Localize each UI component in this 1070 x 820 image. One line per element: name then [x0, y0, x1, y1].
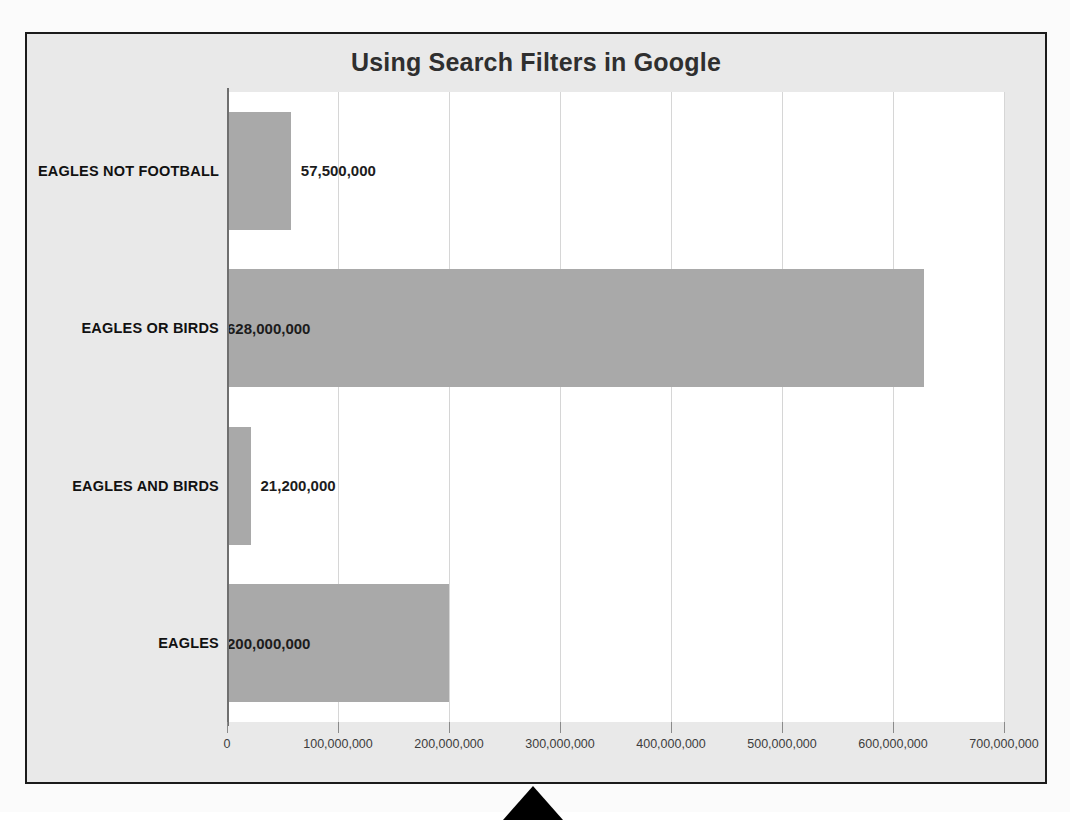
axis-tick-label: 700,000,000	[969, 737, 1039, 751]
axis-tick-label: 200,000,000	[414, 737, 484, 751]
axis-tick	[1004, 722, 1005, 733]
category-label: EAGLES OR BIRDS	[31, 269, 227, 387]
axis-tick-label: 500,000,000	[747, 737, 817, 751]
bar-row[interactable]: 628,000,000	[227, 269, 1004, 387]
axis-tick	[560, 722, 561, 733]
chart-frame: Using Search Filters in Google EAGLES NO…	[25, 32, 1047, 784]
axis-tick	[449, 722, 450, 733]
value-axis: 0100,000,000200,000,000300,000,000400,00…	[227, 722, 1004, 768]
bar[interactable]	[227, 427, 251, 545]
bar-row[interactable]: 21,200,000	[227, 427, 1004, 545]
bar-row[interactable]: 200,000,000	[227, 584, 1004, 702]
axis-tick	[893, 722, 894, 733]
gridline	[1004, 92, 1005, 722]
category-label: EAGLES	[31, 584, 227, 702]
axis-tick-label: 0	[224, 737, 231, 751]
axis-tick	[338, 722, 339, 733]
category-label: EAGLES AND BIRDS	[31, 427, 227, 545]
bar-value-label: 21,200,000	[251, 427, 336, 545]
value-axis-line	[227, 88, 229, 726]
bar-value-label: 200,000,000	[227, 584, 463, 702]
up-arrow-pointer-icon	[503, 786, 563, 820]
axis-tick	[782, 722, 783, 733]
axis-tick	[227, 722, 228, 733]
category-label: EAGLES NOT FOOTBALL	[31, 112, 227, 230]
axis-tick-label: 100,000,000	[303, 737, 373, 751]
bar-value-label: 628,000,000	[227, 269, 938, 387]
bar[interactable]	[227, 112, 291, 230]
chart-title: Using Search Filters in Google	[27, 48, 1045, 77]
axis-tick-label: 400,000,000	[636, 737, 706, 751]
plot-area: 57,500,000628,000,00021,200,000200,000,0…	[227, 92, 1004, 722]
axis-tick-label: 600,000,000	[858, 737, 928, 751]
bar-value-label: 57,500,000	[291, 112, 376, 230]
category-axis-labels: EAGLES NOT FOOTBALLEAGLES OR BIRDSEAGLES…	[27, 92, 227, 722]
axis-tick-label: 300,000,000	[525, 737, 595, 751]
axis-tick	[671, 722, 672, 733]
bar-row[interactable]: 57,500,000	[227, 112, 1004, 230]
